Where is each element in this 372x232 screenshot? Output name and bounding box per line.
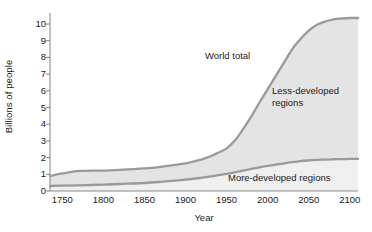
x-axis-title-label: Year — [194, 212, 213, 223]
annotation-less-developed-regions: Less-developed regions — [272, 85, 339, 108]
x-axis-title: Year — [50, 212, 358, 223]
y-axis-ticks — [46, 24, 50, 191]
plot-area — [0, 0, 372, 232]
annotation-more-developed-regions: More-developed regions — [228, 172, 330, 184]
population-projection-chart: Billions of people 012345678910 17501800… — [0, 0, 372, 232]
annotation-world-total: World total — [205, 50, 250, 62]
